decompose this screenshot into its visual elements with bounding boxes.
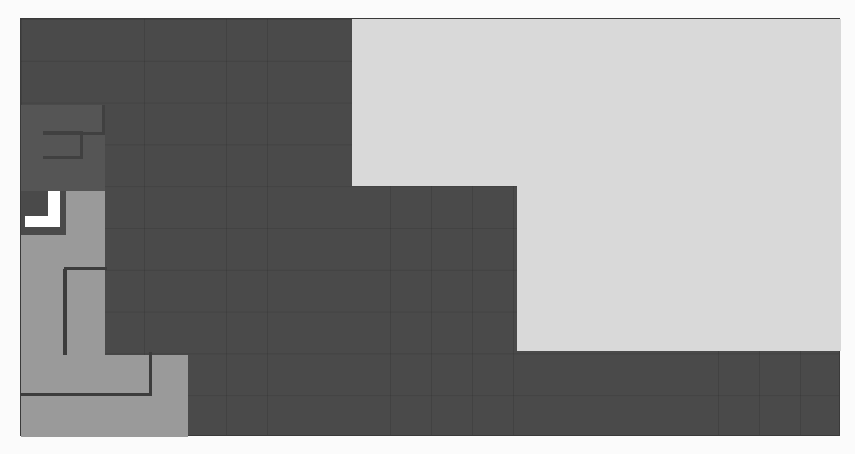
cropped-caption bbox=[0, 0, 855, 10]
active-cell-marker-horizontal bbox=[25, 216, 60, 227]
piece-outline-l bbox=[64, 267, 107, 355]
piece-outline-vert bbox=[21, 269, 66, 355]
piece-outline-j bbox=[21, 352, 152, 396]
light-region-lower bbox=[517, 179, 841, 351]
ghost-piece-outline-2 bbox=[43, 131, 83, 159]
game-board[interactable] bbox=[20, 18, 840, 436]
light-region-top bbox=[352, 19, 841, 186]
